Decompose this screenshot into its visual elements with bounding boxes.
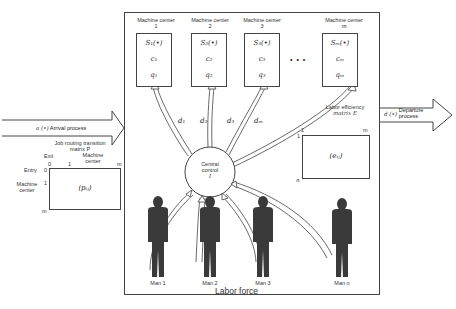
machine-center-2-title: Machine center 2: [188, 17, 232, 29]
routing-row-label-2: center: [14, 187, 40, 193]
dispatch-label-2: d₂: [200, 117, 207, 125]
dispatch-label-1: d₁: [178, 117, 185, 125]
arrival-process-label: a (•) Arrival process: [36, 125, 86, 131]
row-tick-1: 1: [44, 180, 47, 186]
routing-matrix-cell: (pᵢⱼ): [50, 184, 120, 192]
machine-center-3-title: Machine center 3: [240, 17, 284, 29]
machine-center-m-title: Machine center m: [322, 17, 366, 29]
mc-index: 2: [188, 23, 232, 29]
machine-center-2: S₂(•) c₂ q₂: [191, 33, 227, 87]
col-tick-1: 1: [68, 161, 71, 167]
eff-col-tick-1: 1: [301, 127, 304, 133]
row-tick-0: 0: [44, 167, 47, 173]
arrival-text: Arrival process: [50, 125, 86, 131]
efficiency-matrix: (eᵢⱼ): [302, 135, 370, 179]
exit-label: Exit: [44, 153, 53, 159]
mc-index: 3: [240, 23, 284, 29]
mc-index: m: [322, 23, 366, 29]
routing-matrix: (pᵢⱼ): [49, 168, 121, 210]
routing-col-label-2: center: [78, 158, 108, 164]
capacity: c₂: [192, 55, 226, 63]
worker-label-n: Man n: [330, 280, 354, 286]
machine-center-3: S₃(•) c₃ q₃: [244, 33, 280, 87]
machine-center-1-title: Machine center 1: [134, 17, 178, 29]
routing-matrix-title: Job routing transition matrix P: [40, 140, 120, 152]
capacity: cₘ: [323, 55, 357, 63]
capacity: c₁: [137, 55, 171, 63]
col-tick-0: 0: [48, 161, 51, 167]
service-function: Sₘ(•): [323, 39, 357, 47]
routing-row-label: Machine center: [14, 181, 40, 193]
central-control: Central control I: [190, 161, 230, 179]
efficiency-title-2: matrix E: [320, 110, 370, 116]
service-function: S₁(•): [137, 39, 171, 47]
row-tick-m: m: [42, 208, 47, 214]
arrival-symbol: a (•): [36, 125, 49, 131]
mc-index: 1: [134, 23, 178, 29]
machine-center-1: S₁(•) c₁ q₁: [136, 33, 172, 87]
departure-process-label: d (•) Departure process: [384, 108, 423, 119]
eff-col-tick-m: m: [363, 127, 368, 133]
queue: qₘ: [323, 71, 357, 79]
queue: q₂: [192, 71, 226, 79]
queue: q₁: [137, 71, 171, 79]
machine-center-m: Sₘ(•) cₘ qₘ: [322, 33, 358, 87]
departure-text: Departure process: [399, 108, 423, 119]
col-tick-m: m: [117, 161, 122, 167]
departure-text-2: process: [399, 114, 423, 120]
service-function: S₂(•): [192, 39, 226, 47]
labor-force-label: Labor force: [215, 286, 258, 296]
dispatch-label-m: dₘ: [254, 117, 263, 125]
efficiency-matrix-cell: (eᵢⱼ): [303, 152, 369, 160]
efficiency-matrix-title: Labor efficiency matrix E: [320, 104, 370, 116]
worker-label-1: Man 1: [146, 280, 170, 286]
queue: q₃: [245, 71, 279, 79]
routing-col-label: Machine center: [78, 152, 108, 164]
entry-label: Entry: [24, 167, 37, 173]
service-function: S₃(•): [245, 39, 279, 47]
eff-row-tick-1: 1: [297, 133, 300, 139]
central-control-symbol: I: [190, 173, 230, 179]
capacity: c₃: [245, 55, 279, 63]
dispatch-label-3: d₃: [227, 117, 234, 125]
eff-row-tick-n: n: [296, 177, 300, 183]
departure-symbol: d (•): [384, 111, 397, 117]
ellipsis: • • •: [290, 56, 306, 63]
